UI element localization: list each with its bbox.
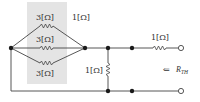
label-resistor-parallel-3: 3[Ω] (36, 69, 54, 78)
arrow-left-icon: ⇐ (163, 65, 170, 74)
resistor-shunt (106, 63, 110, 76)
node-bottom-2 (130, 89, 134, 93)
rth-subscript: TH (181, 69, 189, 75)
node-top-2 (130, 46, 134, 50)
terminal-top (178, 45, 183, 50)
node-shunt-bottom (106, 89, 110, 93)
resistor-series (153, 46, 166, 50)
terminal-bottom (178, 88, 183, 93)
label-wire-1ohm: 1[Ω] (72, 13, 90, 22)
label-resistor-parallel-1: 3[Ω] (36, 13, 54, 22)
circuit-diagram: 3[Ω] 3[Ω] 3[Ω] 1[Ω] 1[Ω] 1[Ω] ⇐ RTH (0, 0, 200, 102)
node-parallel-right (83, 46, 87, 50)
label-resistor-parallel-2: 3[Ω] (36, 35, 54, 44)
label-resistor-shunt: 1[Ω] (85, 66, 103, 75)
node-shunt-top (106, 46, 110, 50)
node-left (9, 46, 13, 50)
label-rth: RTH (175, 65, 189, 75)
label-resistor-series: 1[Ω] (151, 33, 169, 42)
